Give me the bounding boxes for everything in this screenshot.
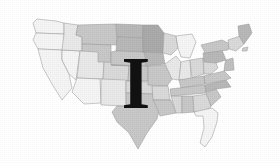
overlay-letter-i: I (121, 50, 151, 116)
us-map-figure: I (0, 0, 279, 164)
